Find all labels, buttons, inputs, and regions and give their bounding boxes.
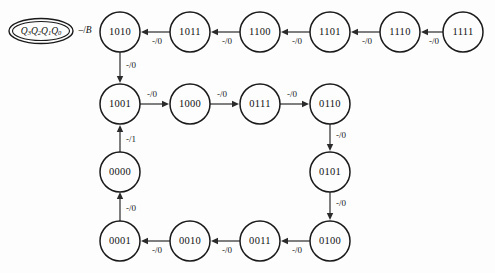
state-label: 1110: [389, 26, 410, 37]
edge-label: -/0: [147, 89, 157, 99]
state-node-0011[interactable]: 0011: [240, 221, 280, 261]
legend-output-label: –/B: [77, 25, 91, 35]
arrow-head-icon: [302, 101, 309, 107]
state-label: 1100: [249, 26, 271, 37]
state-label: 0101: [319, 166, 341, 177]
edge-label: -/0: [152, 245, 162, 255]
arrow-head-icon: [327, 213, 333, 220]
state-node-1010[interactable]: 1010: [100, 12, 140, 52]
edge-label: -/0: [222, 245, 232, 255]
state-node-0100[interactable]: 0100: [310, 221, 350, 261]
edge-label: -/0: [362, 36, 372, 46]
state-node-0101[interactable]: 0101: [310, 152, 350, 192]
state-label: 0100: [319, 235, 341, 246]
arrow-head-icon: [281, 238, 288, 244]
edge-label: -/0: [126, 60, 136, 70]
edge-0100-to-0011: -/0: [281, 238, 310, 255]
edge-0000-to-1001: -/1: [117, 125, 136, 152]
state-node-0110[interactable]: 0110: [310, 84, 350, 124]
state-diagram-container: Q3Q2Q1Q0 –/B -/0 -/0 -/0 -/0: [0, 0, 495, 273]
state-node-0000[interactable]: 0000: [100, 152, 140, 192]
arrow-head-icon: [141, 238, 148, 244]
state-label: 1111: [452, 26, 473, 37]
state-node-0010[interactable]: 0010: [170, 221, 210, 261]
arrow-head-icon: [351, 29, 358, 35]
edge-0111-to-0110: -/0: [280, 89, 309, 107]
edge-0011-to-0010: -/0: [211, 238, 240, 255]
edge-label: -/0: [292, 36, 302, 46]
arrow-head-icon: [211, 238, 218, 244]
state-node-1110[interactable]: 1110: [380, 12, 420, 52]
edge-label: -/0: [217, 89, 227, 99]
state-label: 0110: [319, 98, 341, 109]
state-label: 0000: [109, 166, 131, 177]
state-label: 0011: [249, 235, 271, 246]
state-label: 0001: [109, 235, 131, 246]
edge-1010-to-1001: -/0: [117, 52, 137, 83]
state-node-1111[interactable]: 1111: [443, 12, 483, 52]
state-label: 0010: [179, 235, 201, 246]
edge-0001-to-0000: -/0: [117, 192, 137, 221]
state-node-1011[interactable]: 1011: [170, 12, 210, 52]
edge-0010-to-0001: -/0: [141, 238, 170, 255]
arrow-head-icon: [421, 29, 428, 35]
edge-label: -/0: [429, 36, 439, 46]
edge-label: -/0: [126, 203, 136, 213]
state-node-1100[interactable]: 1100: [240, 12, 280, 52]
state-label: 1000: [179, 98, 201, 109]
arrow-head-icon: [141, 29, 148, 35]
edge-label: -/1: [126, 134, 136, 144]
arrow-head-icon: [117, 192, 123, 199]
arrow-head-icon: [232, 101, 239, 107]
legend-group: Q3Q2Q1Q0 –/B: [9, 19, 92, 44]
edge-1110-to-1101: -/0: [351, 29, 380, 46]
edge-1111-to-1110: -/0: [421, 29, 443, 46]
state-label: 1101: [319, 26, 341, 37]
edge-label: -/0: [336, 130, 346, 140]
state-label: 1011: [179, 26, 201, 37]
arrow-head-icon: [211, 29, 218, 35]
edge-label: -/0: [222, 36, 232, 46]
edge-1101-to-1100: -/0: [281, 29, 310, 46]
arrow-head-icon: [327, 144, 333, 151]
state-node-1000[interactable]: 1000: [170, 84, 210, 124]
state-node-0001[interactable]: 0001: [100, 221, 140, 261]
edge-label: -/0: [152, 36, 162, 46]
edge-label: -/0: [336, 198, 346, 208]
edge-label: -/0: [287, 89, 297, 99]
state-node-1001[interactable]: 1001: [100, 84, 140, 124]
arrow-head-icon: [117, 76, 123, 83]
edge-0110-to-0101: -/0: [327, 124, 347, 151]
state-label: 0111: [249, 98, 270, 109]
edge-0101-to-0100: -/0: [327, 192, 347, 220]
state-diagram-canvas: Q3Q2Q1Q0 –/B -/0 -/0 -/0 -/0: [0, 0, 495, 273]
state-node-1101[interactable]: 1101: [310, 12, 350, 52]
state-label: 1001: [109, 98, 131, 109]
edge-1100-to-1011: -/0: [211, 29, 240, 46]
edge-1011-to-1010: -/0: [141, 29, 170, 46]
state-node-0111[interactable]: 0111: [240, 84, 280, 124]
state-label: 1010: [109, 26, 131, 37]
arrow-head-icon: [162, 101, 169, 107]
edge-1001-to-1000: -/0: [140, 89, 169, 107]
edge-label: -/0: [292, 245, 302, 255]
arrow-head-icon: [281, 29, 288, 35]
arrow-head-icon: [117, 125, 123, 132]
legend-state-encoding: Q3Q2Q1Q0: [21, 26, 62, 36]
edge-1000-to-0111: -/0: [210, 89, 239, 107]
